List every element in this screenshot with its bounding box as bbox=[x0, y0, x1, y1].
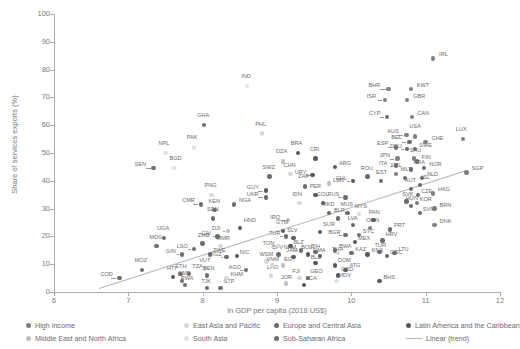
data-point bbox=[209, 193, 213, 197]
label-leader-line bbox=[193, 204, 198, 205]
data-point bbox=[383, 98, 387, 102]
label-leader-line bbox=[273, 246, 275, 247]
data-point-label: HKG bbox=[438, 187, 450, 193]
data-point-label: COL bbox=[317, 192, 329, 198]
data-point bbox=[336, 216, 340, 220]
data-point-label: CHN bbox=[283, 163, 295, 169]
legend-item[interactable]: Latin America and the Caribbean bbox=[406, 320, 520, 331]
data-point-label: KOR bbox=[420, 197, 432, 203]
data-point bbox=[302, 283, 306, 287]
y-tick-label: 50 bbox=[24, 149, 50, 157]
data-point-label: SLV bbox=[287, 228, 297, 234]
data-point-label: HRV bbox=[386, 232, 398, 238]
data-point bbox=[365, 174, 369, 178]
data-point-label: IDN bbox=[292, 192, 302, 198]
data-point-label: KHM bbox=[230, 272, 242, 278]
data-point-label: ISL bbox=[422, 175, 430, 181]
legend-item[interactable]: South Asia bbox=[184, 333, 227, 344]
data-point-label: NOR bbox=[429, 162, 441, 168]
data-point-label: JOR bbox=[281, 275, 292, 281]
legend-item[interactable]: High income bbox=[26, 320, 75, 331]
data-point bbox=[205, 286, 209, 290]
data-point-label: MKD bbox=[322, 202, 334, 208]
y-tick-label: 10 bbox=[24, 260, 50, 268]
data-point-label: BEL bbox=[391, 135, 402, 141]
data-point-label: BLZ bbox=[311, 255, 321, 261]
label-leader-line bbox=[347, 181, 350, 182]
data-point bbox=[318, 230, 322, 234]
data-point-label: SYC bbox=[363, 229, 375, 235]
data-point-label: ARG bbox=[339, 161, 351, 167]
data-point-label: VNM bbox=[267, 257, 279, 263]
data-point-label: KEN bbox=[209, 199, 221, 205]
data-point-label: TJK bbox=[201, 279, 211, 285]
data-point bbox=[394, 145, 398, 149]
data-point bbox=[327, 181, 331, 185]
legend-item[interactable]: Linear (trend) bbox=[406, 333, 469, 344]
y-tick: 60 bbox=[0, 121, 50, 129]
data-point bbox=[276, 244, 280, 248]
data-point-label: MDG bbox=[150, 235, 163, 241]
legend-item[interactable]: Europe and Central Asia bbox=[274, 320, 361, 331]
legend-label: South Asia bbox=[193, 334, 227, 343]
data-point-label: GRC bbox=[390, 250, 402, 256]
data-point bbox=[200, 241, 204, 245]
legend-item[interactable]: East Asia and Pacific bbox=[184, 320, 260, 331]
data-point bbox=[264, 188, 268, 192]
data-point-label: OMN bbox=[366, 218, 379, 224]
label-leader-line bbox=[401, 149, 404, 150]
data-point-label: SEN bbox=[135, 162, 147, 168]
x-tick-label: 6 bbox=[42, 296, 66, 305]
data-point-label: FRA bbox=[414, 160, 425, 166]
legend-label: Sub-Saharan Africa bbox=[283, 334, 345, 343]
legend-dot-swatch bbox=[184, 323, 189, 328]
legend-item[interactable]: Middle East and North Africa bbox=[26, 333, 126, 344]
data-point bbox=[413, 134, 417, 138]
data-point-label: HND bbox=[244, 218, 256, 224]
data-point bbox=[353, 240, 357, 244]
data-point bbox=[199, 202, 203, 206]
legend-label: Linear (trend) bbox=[426, 334, 469, 343]
data-point-label: ROU bbox=[361, 166, 373, 172]
data-point-label: PER bbox=[310, 184, 322, 190]
data-point bbox=[333, 263, 337, 267]
data-point-label: IRL bbox=[439, 52, 448, 58]
data-point-label: TUR bbox=[269, 231, 281, 237]
data-point-label: BLR bbox=[334, 208, 345, 214]
data-point bbox=[365, 252, 369, 256]
data-point bbox=[296, 151, 300, 155]
data-point-label: KNA bbox=[372, 248, 384, 254]
data-point-label: ITA bbox=[379, 161, 387, 167]
data-point-label: PAK bbox=[187, 135, 198, 141]
x-tick-label: 10 bbox=[339, 296, 363, 305]
y-tick: 90 bbox=[0, 38, 50, 46]
data-point bbox=[386, 87, 390, 91]
data-point-label: ZAF bbox=[298, 174, 309, 180]
legend-item[interactable]: Sub-Saharan Africa bbox=[274, 333, 345, 344]
data-point bbox=[171, 275, 175, 279]
y-tick-label: 30 bbox=[24, 205, 50, 213]
y-tick-label: 20 bbox=[24, 232, 50, 240]
data-point bbox=[418, 183, 422, 187]
x-tick-label: 9 bbox=[265, 296, 289, 305]
data-point-label: KGZ bbox=[210, 252, 222, 258]
data-point-label: PNG bbox=[205, 183, 217, 189]
data-point bbox=[183, 283, 187, 287]
legend-line-swatch bbox=[406, 338, 422, 339]
y-tick: 0 bbox=[0, 288, 50, 296]
label-leader-line bbox=[378, 100, 382, 101]
data-point bbox=[303, 184, 307, 188]
data-point bbox=[405, 147, 409, 151]
data-point-label: HUN bbox=[406, 196, 418, 202]
data-point bbox=[140, 268, 144, 272]
data-point bbox=[269, 273, 273, 277]
label-leader-line bbox=[390, 159, 394, 160]
data-point bbox=[299, 248, 303, 252]
y-tick: 20 bbox=[0, 232, 50, 240]
label-leader-line bbox=[402, 142, 406, 143]
data-point-label: NPL bbox=[159, 141, 170, 147]
data-point bbox=[202, 123, 206, 127]
label-leader-line bbox=[188, 249, 191, 250]
data-point bbox=[218, 286, 222, 290]
